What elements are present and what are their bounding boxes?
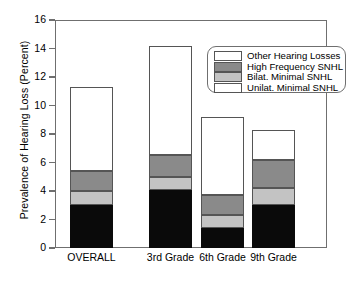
y-tick-label: 0	[6, 242, 46, 253]
legend-swatch-icon	[214, 62, 242, 72]
legend-swatch-icon	[214, 83, 242, 93]
y-tick-label: 14	[6, 43, 46, 54]
bar-segment	[252, 205, 295, 248]
x-axis-label: OVERALL	[47, 251, 137, 263]
legend-label: High Frequency SNHL	[247, 61, 343, 72]
y-tick-label: 8	[6, 128, 46, 139]
bar-segment	[70, 205, 113, 248]
y-tick-label: 2	[6, 214, 46, 225]
legend-label: Bilat. Minimal SNHL	[247, 71, 332, 82]
legend-label: Unilat. Minimal SNHL	[247, 82, 338, 93]
chart-figure: Prevalence of Hearing Loss (Percent) 024…	[0, 0, 352, 283]
legend: Other Hearing LossesHigh Frequency SNHLB…	[207, 46, 346, 93]
y-tick-label: 16	[6, 14, 46, 25]
bar-segment	[70, 191, 113, 205]
x-axis-label: 9th Grade	[229, 251, 319, 263]
bar-segment	[70, 171, 113, 191]
legend-item: High Frequency SNHL	[214, 62, 341, 72]
y-tick-mark	[49, 76, 55, 77]
y-tick-mark	[49, 162, 55, 163]
stacked-bar	[201, 117, 244, 248]
legend-item: Other Hearing Losses	[214, 51, 341, 61]
y-tick-label: 4	[6, 185, 46, 196]
y-tick-label: 12	[6, 71, 46, 82]
y-tick-mark	[49, 19, 55, 20]
legend-swatch-icon	[214, 51, 242, 61]
bar-segment	[252, 188, 295, 205]
legend-item: Bilat. Minimal SNHL	[214, 72, 341, 82]
stacked-bar	[252, 130, 295, 248]
bar-segment	[149, 190, 192, 248]
legend-item: Unilat. Minimal SNHL	[214, 83, 341, 93]
legend-swatch-icon	[214, 72, 242, 82]
y-tick-label: 6	[6, 157, 46, 168]
y-tick-mark	[49, 219, 55, 220]
y-tick-mark	[49, 190, 55, 191]
bar-segment	[252, 160, 295, 189]
y-tick-mark	[49, 105, 55, 106]
bar-segment	[201, 215, 244, 228]
bar-segment	[201, 228, 244, 248]
y-tick-label: 10	[6, 100, 46, 111]
bar-segment	[149, 46, 192, 156]
bar-segment	[149, 177, 192, 190]
y-tick-mark	[49, 48, 55, 49]
bar-segment	[201, 117, 244, 195]
bar-segment	[201, 195, 244, 215]
y-tick-mark	[49, 133, 55, 134]
stacked-bar	[70, 87, 113, 248]
bar-segment	[149, 155, 192, 176]
legend-label: Other Hearing Losses	[247, 50, 340, 61]
y-tick-mark	[49, 247, 55, 248]
bar-segment	[70, 87, 113, 171]
bar-segment	[252, 130, 295, 160]
stacked-bar	[149, 46, 192, 248]
